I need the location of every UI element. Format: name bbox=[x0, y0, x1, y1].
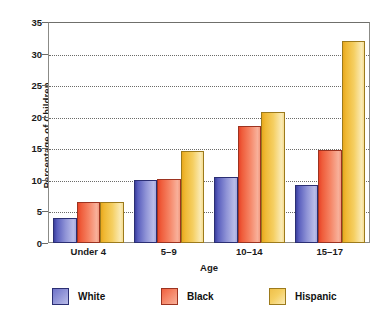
bar-chart: Percentage of Children 05101520253035 Un… bbox=[0, 0, 386, 323]
x-axis-tick-label: 5–9 bbox=[161, 246, 177, 257]
bar bbox=[214, 177, 238, 243]
legend-swatch-icon bbox=[161, 288, 178, 305]
y-axis-tick-label: 30 bbox=[16, 48, 42, 59]
bar bbox=[261, 112, 285, 243]
y-axis-tick-label: 25 bbox=[16, 80, 42, 91]
x-axis-tick-label: Under 4 bbox=[71, 246, 106, 257]
bar bbox=[238, 126, 262, 243]
bar bbox=[318, 150, 342, 243]
legend-label: White bbox=[78, 291, 105, 302]
bar bbox=[53, 218, 77, 243]
chart-legend: WhiteBlackHispanic bbox=[0, 288, 386, 314]
bar bbox=[157, 179, 181, 243]
legend-item: Black bbox=[161, 288, 214, 305]
bar bbox=[342, 41, 366, 243]
y-axis-tick-label: 15 bbox=[16, 143, 42, 154]
y-axis-tick-label: 20 bbox=[16, 111, 42, 122]
x-axis-tick-label: 15–17 bbox=[317, 246, 343, 257]
y-axis-tick-label: 10 bbox=[16, 174, 42, 185]
legend-item: Hispanic bbox=[269, 288, 337, 305]
bar bbox=[134, 180, 158, 243]
legend-item: White bbox=[52, 288, 105, 305]
x-axis-tick-label: 10–14 bbox=[236, 246, 262, 257]
bar bbox=[295, 185, 319, 243]
y-axis-tick-label: 5 bbox=[16, 206, 42, 217]
y-axis-tick-label: 0 bbox=[16, 238, 42, 249]
y-axis-tick-labels: 05101520253035 bbox=[0, 0, 42, 323]
x-axis-title: Age bbox=[48, 262, 370, 273]
bar bbox=[100, 202, 124, 243]
legend-label: Black bbox=[187, 291, 214, 302]
x-axis-tick-labels: Under 45–910–1415–17 bbox=[48, 246, 370, 262]
y-axis-tick-mark bbox=[42, 243, 48, 244]
legend-swatch-icon bbox=[269, 288, 286, 305]
legend-swatch-icon bbox=[52, 288, 69, 305]
bar bbox=[181, 151, 205, 243]
legend-label: Hispanic bbox=[295, 291, 337, 302]
bars-layer bbox=[48, 22, 370, 243]
y-axis-tick-label: 35 bbox=[16, 17, 42, 28]
bar bbox=[77, 202, 101, 243]
